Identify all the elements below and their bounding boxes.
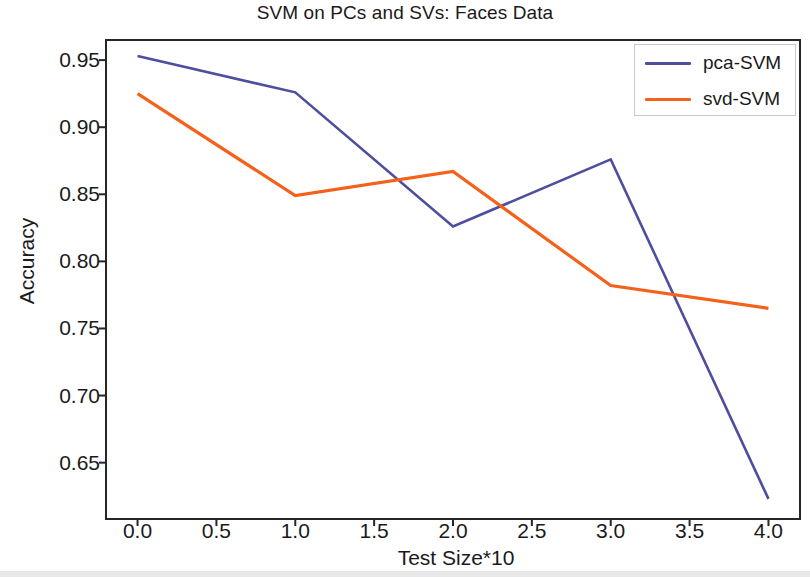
x-tick-label: 2.5 (497, 519, 567, 543)
y-tick-label: 0.90 (30, 115, 100, 139)
y-tick-label: 0.95 (30, 48, 100, 72)
legend-label-svd-svm: svd-SVM (703, 88, 780, 110)
y-tick-label: 0.65 (30, 451, 100, 475)
series-lines (138, 56, 769, 499)
x-tick-label: 3.0 (576, 519, 646, 543)
x-tick-label: 0.5 (181, 519, 251, 543)
legend-swatch-svd-svm (645, 98, 691, 101)
image-bottom-edge (0, 571, 810, 577)
y-tick-label: 0.75 (30, 316, 100, 340)
y-tick-label: 0.85 (30, 182, 100, 206)
legend-swatch-pca-svm (645, 62, 691, 65)
legend-item-svd-svm: svd-SVM (635, 81, 795, 117)
legend-item-pca-svm: pca-SVM (635, 45, 795, 81)
x-tick-label: 0.0 (103, 519, 173, 543)
y-tick-label: 0.80 (30, 249, 100, 273)
x-tick-label: 1.5 (339, 519, 409, 543)
x-tick-label: 2.0 (418, 519, 488, 543)
y-tick-label: 0.70 (30, 384, 100, 408)
x-tick-label-group: 0.00.51.01.52.02.53.03.54.0 (0, 519, 810, 559)
series-line-pca-svm (138, 56, 769, 499)
x-tick-label: 4.0 (733, 519, 803, 543)
y-tick-label-group: 0.650.700.750.800.850.900.95 (0, 0, 100, 577)
legend-label-pca-svm: pca-SVM (703, 52, 781, 74)
chart-legend: pca-SVM svd-SVM (634, 44, 796, 116)
x-tick-label: 3.5 (655, 519, 725, 543)
chart-figure: SVM on PCs and SVs: Faces Data Accuracy … (0, 0, 810, 577)
series-line-svd-svm (138, 94, 769, 309)
x-tick-label: 1.0 (260, 519, 330, 543)
